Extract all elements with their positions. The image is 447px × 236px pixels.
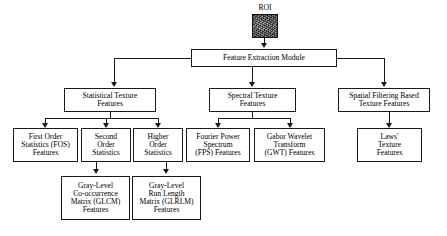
node-gabor-wavelet-transform-gwt[interactable]: Gabor WaveletTransform(GWT) Features bbox=[254, 128, 325, 162]
connector-spectral-stem bbox=[252, 112, 253, 118]
node-spatial-filtering-texture-features-label: Spatial Filtering BasedTexture Features bbox=[341, 92, 427, 108]
node-statistical-texture-features-label: Statistical TextureFeatures bbox=[67, 92, 153, 108]
connector-root-to-statistical bbox=[114, 58, 115, 85]
node-glcm-features-label: Gray-LevelCo-occurrenceMatrix (GLCM)Feat… bbox=[64, 182, 127, 215]
node-first-order-statistics-fos-label: First OrderStatistics (FOS)Features bbox=[16, 133, 75, 158]
arrowhead-roi-to-root bbox=[261, 43, 267, 48]
arrowhead-root-to-statistical bbox=[111, 82, 117, 87]
roi-label: ROI bbox=[245, 3, 285, 12]
node-glrlm-features-label: Gray-LevelRun LengthMatrix (GLRLM)Featur… bbox=[135, 182, 198, 215]
node-laws-texture-features-label: Laws'TextureFeatures bbox=[360, 133, 419, 158]
connector-spectral-bus bbox=[218, 118, 290, 119]
node-higher-order-statistics-label: HigherOrderStatistics bbox=[136, 133, 180, 158]
connector-root-right-bus bbox=[336, 58, 385, 59]
arrowhead-higher-order-to-glrlm bbox=[163, 169, 169, 174]
node-laws-texture-features[interactable]: Laws'TextureFeatures bbox=[357, 128, 422, 162]
node-second-order-statistics[interactable]: SecondOrderStatistics bbox=[81, 128, 131, 162]
roi-texture-image bbox=[252, 14, 278, 38]
connector-statistical-bus bbox=[45, 118, 158, 119]
node-spectral-texture-features[interactable]: Spectral TextureFeatures bbox=[209, 88, 296, 112]
connector-statistical-stem bbox=[110, 112, 111, 118]
arrowhead-root-to-spatial bbox=[381, 82, 387, 87]
node-statistical-texture-features[interactable]: Statistical TextureFeatures bbox=[64, 88, 156, 112]
connector-root-to-spatial bbox=[384, 58, 385, 85]
node-fourier-power-spectrum-fps-label: Fourier PowerSpectrum(FPS) Features bbox=[189, 133, 247, 158]
node-first-order-statistics-fos[interactable]: First OrderStatistics (FOS)Features bbox=[13, 128, 78, 162]
node-second-order-statistics-label: SecondOrderStatistics bbox=[84, 133, 128, 158]
node-spectral-texture-features-label: Spectral TextureFeatures bbox=[212, 92, 293, 108]
arrowhead-root-to-spectral bbox=[249, 82, 255, 87]
arrowhead-second-order-to-glcm bbox=[93, 169, 99, 174]
node-higher-order-statistics[interactable]: HigherOrderStatistics bbox=[133, 128, 183, 162]
node-feature-extraction-module[interactable]: Feature Extraction Module bbox=[191, 49, 337, 67]
connector-root-left-bus bbox=[114, 58, 192, 59]
feature-extraction-diagram: ROI Feature Extraction Module Statistica… bbox=[0, 0, 447, 236]
node-fourier-power-spectrum-fps[interactable]: Fourier PowerSpectrum(FPS) Features bbox=[186, 128, 250, 162]
node-gabor-wavelet-transform-gwt-label: Gabor WaveletTransform(GWT) Features bbox=[257, 133, 322, 158]
node-spatial-filtering-texture-features[interactable]: Spatial Filtering BasedTexture Features bbox=[338, 88, 430, 112]
node-feature-extraction-module-label: Feature Extraction Module bbox=[194, 54, 334, 62]
node-glrlm-features[interactable]: Gray-LevelRun LengthMatrix (GLRLM)Featur… bbox=[132, 176, 201, 220]
node-glcm-features[interactable]: Gray-LevelCo-occurrenceMatrix (GLCM)Feat… bbox=[61, 176, 130, 220]
